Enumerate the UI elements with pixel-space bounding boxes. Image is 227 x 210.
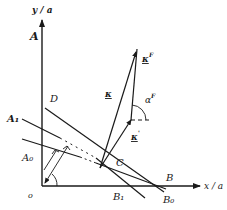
- line-a1-b1-dashed: [60, 138, 96, 158]
- normal-line-2: [44, 151, 56, 170]
- origin-label: o: [28, 191, 33, 200]
- geometry-diagram: y / a x / a o A D A₁ A₀ C B B₁ B₀ κ κ F …: [0, 0, 227, 210]
- x-axis-label: x / a: [204, 181, 223, 191]
- normal-line-1: [45, 146, 68, 183]
- point-a-label: A: [29, 30, 39, 43]
- angle-arc-origin: [52, 174, 57, 186]
- vector-kappa-f-sup: F: [148, 51, 154, 58]
- point-c-label: C: [116, 157, 124, 168]
- line-a1-b1: [22, 119, 60, 138]
- line-a0-b-dashed: [80, 157, 96, 163]
- line-d-b0: [45, 108, 164, 192]
- point-a0-label: A₀: [21, 152, 33, 163]
- vector-kappa: [100, 52, 136, 168]
- point-b1-label: B₁: [112, 191, 124, 202]
- y-axis-label: y / a: [31, 5, 53, 15]
- point-b-label: B: [165, 172, 173, 183]
- vector-kappa-f-label: κ: [141, 54, 149, 64]
- vector-kappa-prime-sup: ': [138, 129, 140, 136]
- vector-kappa-prime-label: κ: [130, 132, 138, 142]
- line-a0-b-right: [96, 163, 166, 189]
- point-a1-label: A₁: [6, 113, 19, 124]
- point-d-label: D: [49, 93, 58, 104]
- point-b0-label: B₀: [162, 194, 174, 205]
- angle-alpha-f-sup: F: [150, 92, 156, 99]
- vector-kappa-label: κ: [104, 89, 112, 99]
- angle-arc-alpha-f: [132, 105, 146, 120]
